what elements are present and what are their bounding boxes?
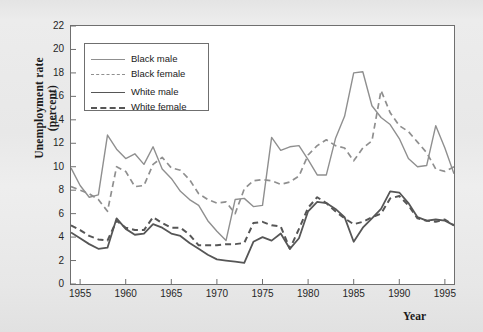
y-tick-label: 8 <box>42 184 64 195</box>
y-tick-label: 18 <box>42 67 64 78</box>
x-tick-label: 1960 <box>106 288 146 299</box>
legend-item: Black female <box>91 68 205 82</box>
legend-label: Black male <box>131 53 177 64</box>
legend-item: Black male <box>91 53 205 67</box>
y-tick-label: 12 <box>42 137 64 148</box>
legend-swatch <box>91 74 125 75</box>
legend-label: Black female <box>131 68 185 79</box>
legend-item: White female <box>91 101 205 115</box>
legend-label: White female <box>131 101 186 112</box>
legend-item: White male <box>91 86 205 100</box>
y-tick-label: 20 <box>42 43 64 54</box>
chart-legend: Black maleBlack femaleWhite maleWhite fe… <box>84 43 209 111</box>
y-tick-label: 4 <box>42 231 64 242</box>
y-tick-label: 14 <box>42 114 64 125</box>
y-tick-label: 2 <box>42 255 64 266</box>
x-axis-title: Year <box>403 310 426 322</box>
x-tick-label: 1990 <box>379 288 419 299</box>
legend-label: White male <box>131 86 179 97</box>
y-tick-label: 16 <box>42 90 64 101</box>
x-tick-label: 1995 <box>425 288 465 299</box>
x-tick-label: 1985 <box>334 288 374 299</box>
y-tick-label: 10 <box>42 161 64 172</box>
x-tick-label: 1955 <box>60 288 100 299</box>
x-tick-label: 1975 <box>243 288 283 299</box>
legend-swatch <box>91 107 125 109</box>
chart-figure: Unemployment rate (percent) Year 0246810… <box>0 0 483 332</box>
x-tick-label: 1965 <box>151 288 191 299</box>
y-tick-label: 6 <box>42 208 64 219</box>
y-tick-label: 22 <box>42 20 64 31</box>
x-tick-label: 1970 <box>197 288 237 299</box>
x-tick-label: 1980 <box>288 288 328 299</box>
legend-swatch <box>91 92 125 93</box>
legend-swatch <box>91 59 125 60</box>
